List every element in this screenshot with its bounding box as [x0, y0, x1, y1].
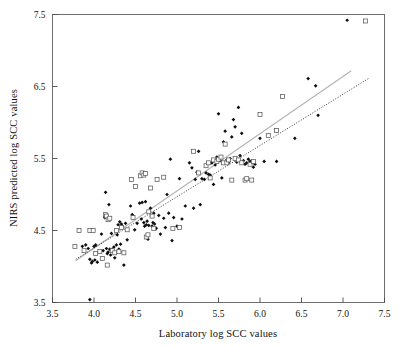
data-point-filled [240, 131, 244, 135]
data-point-open [122, 251, 126, 255]
data-point-filled [170, 239, 174, 243]
data-point-open [223, 142, 227, 146]
data-point-filled [275, 160, 279, 164]
y-tick-label: 5.5 [34, 154, 46, 164]
data-point-filled [223, 129, 227, 133]
data-point-filled [165, 193, 169, 197]
data-point-filled [167, 211, 171, 215]
x-tick-label: 3.5 [47, 309, 59, 319]
data-point-filled [220, 176, 224, 180]
data-point-open [143, 172, 147, 176]
data-point-filled [316, 113, 320, 117]
data-point-open [82, 249, 86, 253]
data-point-open [94, 252, 98, 256]
data-point-filled [142, 221, 146, 225]
data-point-open [251, 159, 255, 163]
x-tick-label: 5.5 [213, 309, 225, 319]
data-point-open [108, 216, 112, 220]
data-point-open [245, 177, 249, 181]
data-point-filled [306, 77, 310, 81]
data-point-filled [230, 135, 234, 139]
data-point-open [91, 229, 95, 233]
y-tick-label: 7.5 [34, 10, 46, 20]
data-point-filled [172, 216, 176, 220]
data-point-filled [314, 84, 318, 88]
y-tick-label: 6.5 [34, 82, 46, 92]
y-tick-label: 4.5 [34, 226, 46, 236]
x-tick-label: 6.5 [296, 309, 308, 319]
data-point-filled [162, 216, 166, 220]
data-point-filled [104, 190, 108, 194]
data-point-open [230, 178, 234, 182]
x-tick-label: 7.0 [337, 309, 349, 319]
y-axis-title: NIRS predicted log SCC values [8, 89, 19, 227]
data-point-open [208, 176, 212, 180]
data-point-open [219, 155, 223, 159]
data-point-filled [197, 149, 201, 153]
data-point-open [131, 216, 135, 220]
data-point-filled [144, 200, 148, 204]
data-point-filled [262, 160, 266, 164]
data-point-open [258, 113, 262, 117]
data-point-open [192, 149, 196, 153]
data-point-filled [198, 203, 202, 207]
data-point-open [197, 171, 201, 175]
data-point-filled [145, 219, 149, 223]
data-point-filled [105, 247, 109, 251]
data-point-filled [88, 257, 92, 261]
data-point-filled [183, 204, 187, 208]
data-point-open [117, 249, 121, 253]
scatter-plot-figure: 3.54.04.55.05.56.06.57.07.5 3.54.55.56.5… [0, 0, 403, 346]
data-point-open [240, 161, 244, 165]
data-point-filled [169, 157, 173, 161]
data-point-open [98, 249, 102, 253]
x-tick-label: 6.0 [254, 309, 266, 319]
data-point-filled [232, 118, 236, 122]
data-point-open [125, 228, 129, 232]
data-point-filled [233, 125, 237, 129]
data-point-open [177, 226, 181, 230]
data-point-open [148, 186, 152, 190]
data-point-open [280, 95, 284, 99]
data-point-open [155, 177, 159, 181]
x-tick-label: 5.0 [171, 309, 183, 319]
data-point-filled [129, 204, 133, 208]
regression-line-dotted [76, 78, 370, 259]
data-point-filled [88, 298, 92, 302]
data-point-filled [125, 238, 129, 242]
data-point-filled [178, 177, 182, 181]
data-point-open [266, 133, 270, 137]
data-point-open [275, 128, 279, 132]
data-point-filled [86, 247, 90, 251]
regression-lines-group [76, 71, 370, 261]
data-point-open [250, 178, 254, 182]
data-point-filled [217, 112, 221, 116]
x-axis-title: Laboratory log SCC values [159, 328, 277, 339]
y-tick-label: 3.5 [34, 298, 46, 308]
data-point-filled [190, 166, 194, 170]
data-point-open [207, 161, 211, 165]
data-point-open [171, 226, 175, 230]
data-point-filled [107, 203, 111, 207]
data-point-filled [192, 206, 196, 210]
data-point-open [119, 226, 123, 230]
data-point-open [113, 251, 117, 255]
data-point-open [152, 226, 156, 230]
data-point-filled [100, 232, 104, 236]
data-point-open [114, 229, 118, 233]
data-point-filled [124, 221, 128, 225]
data-point-filled [113, 256, 117, 260]
data-point-open [146, 233, 150, 237]
data-point-open [77, 229, 81, 233]
data-point-open [150, 214, 154, 218]
data-point-open [100, 257, 104, 261]
data-point-open [73, 244, 77, 248]
x-tick-label: 7.5 [379, 309, 391, 319]
data-point-filled [164, 226, 168, 230]
x-axis-ticks-group: 3.54.04.55.05.56.06.57.07.5 [47, 298, 391, 319]
data-point-open [105, 263, 109, 267]
data-point-filled [258, 136, 262, 140]
x-tick-label: 4.0 [88, 309, 100, 319]
data-point-filled [84, 243, 88, 247]
data-point-open [134, 185, 138, 189]
